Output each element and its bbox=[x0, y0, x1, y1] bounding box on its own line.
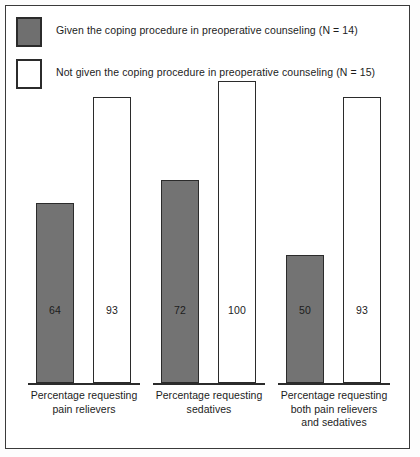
bar-not-given-sedatives bbox=[218, 81, 256, 383]
group-label-line: pain relievers bbox=[14, 403, 154, 417]
bar-value-given-sedatives: 72 bbox=[161, 304, 199, 316]
bar-value-not-given-pain-relievers: 93 bbox=[93, 304, 131, 316]
bar-given-both bbox=[286, 255, 324, 383]
plot-area: 64 93 Percentage requesting pain relieve… bbox=[6, 6, 411, 450]
bar-value-given-pain-relievers: 64 bbox=[36, 304, 74, 316]
bar-given-sedatives bbox=[161, 180, 199, 383]
bar-not-given-both bbox=[343, 97, 381, 383]
bar-value-not-given-sedatives: 100 bbox=[218, 304, 256, 316]
baseline-group-both bbox=[278, 383, 390, 385]
group-label-both: Percentage requesting both pain reliever… bbox=[264, 389, 404, 430]
group-label-sedatives: Percentage requesting sedatives bbox=[139, 389, 279, 416]
baseline-group-pain-relievers bbox=[28, 383, 140, 385]
group-label-line: Percentage requesting bbox=[139, 389, 279, 403]
bar-not-given-pain-relievers bbox=[93, 97, 131, 383]
group-label-line: sedatives bbox=[139, 403, 279, 417]
group-label-line: Percentage requesting bbox=[264, 389, 404, 403]
figure-canvas: Given the coping procedure in preoperati… bbox=[0, 0, 420, 457]
baseline-group-sedatives bbox=[153, 383, 265, 385]
group-label-pain-relievers: Percentage requesting pain relievers bbox=[14, 389, 154, 416]
chart-frame: Given the coping procedure in preoperati… bbox=[5, 5, 410, 449]
bar-given-pain-relievers bbox=[36, 203, 74, 383]
group-label-line: both pain relievers bbox=[264, 403, 404, 417]
group-label-line: Percentage requesting bbox=[14, 389, 154, 403]
bar-value-not-given-both: 93 bbox=[343, 304, 381, 316]
bar-value-given-both: 50 bbox=[286, 304, 324, 316]
group-label-line: and sedatives bbox=[264, 416, 404, 430]
